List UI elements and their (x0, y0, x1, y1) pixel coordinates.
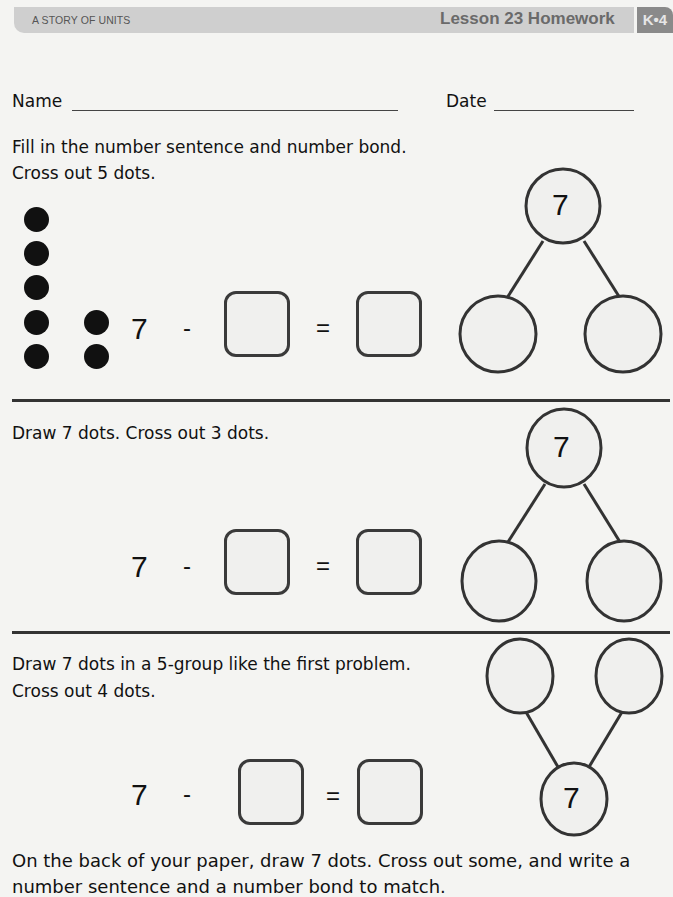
bond-whole: 7 (563, 781, 580, 815)
footer-instruction-line-1: On the back of your paper, draw 7 dots. … (12, 850, 630, 871)
bond-part-2[interactable] (596, 639, 662, 713)
footer-instruction-line-2: number sentence and a number bond to mat… (12, 876, 446, 897)
bond-part-1[interactable] (487, 639, 553, 713)
